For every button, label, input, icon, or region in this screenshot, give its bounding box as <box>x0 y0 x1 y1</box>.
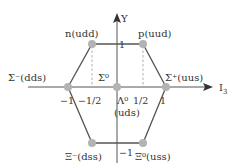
tick-x-neg-half: −1/2 <box>78 95 101 106</box>
point-sigma-minus <box>64 83 72 91</box>
point-center <box>113 83 121 91</box>
label-p: p(uud) <box>138 28 172 39</box>
point-sigma-plus <box>162 83 170 91</box>
point-xi-zero <box>139 139 147 147</box>
i3-axis-label: I3 <box>219 82 227 96</box>
tick-y-pos1: 1 <box>119 39 125 50</box>
label-sigma-zero: Σ⁰ <box>98 72 109 83</box>
baryon-octet-diagram: Y I3 −1 −1/2 1/2 1 1 −1 n(udd) p(uud) Σ⁻… <box>0 0 240 167</box>
label-lambda-quarks: (uds) <box>114 107 140 118</box>
tick-x-neg1: −1 <box>60 95 74 106</box>
label-n: n(udd) <box>65 28 99 39</box>
label-xi-minus: Ξ⁻(dss) <box>65 151 102 162</box>
y-axis-label: Y <box>120 13 128 24</box>
label-sigma-minus: Σ⁻(dds) <box>8 72 46 83</box>
point-xi-minus <box>88 139 96 147</box>
tick-y-neg1: −1 <box>119 147 133 158</box>
label-sigma-plus: Σ⁺(uus) <box>165 72 203 83</box>
tick-x-pos1: 1 <box>160 95 166 106</box>
tick-x-half: 1/2 <box>133 95 148 106</box>
label-lambda-zero: Λ⁰ <box>116 95 128 106</box>
point-n <box>88 40 96 48</box>
point-p <box>139 40 147 48</box>
label-xi-zero: Ξ⁰(uss) <box>135 151 171 162</box>
